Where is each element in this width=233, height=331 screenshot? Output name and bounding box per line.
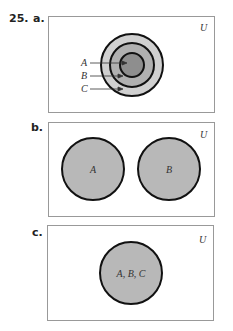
circle-a — [120, 53, 144, 77]
panel-c: U A, B, C — [48, 226, 214, 321]
universe-label-c: U — [199, 234, 207, 245]
universe-label-a: U — [200, 22, 208, 33]
label-a: A — [80, 57, 88, 68]
venn-diagrams: U A B C U A B U A, B, C — [0, 0, 233, 331]
panel-a: U A B C — [49, 17, 215, 113]
circle-label-a: A — [89, 164, 97, 175]
panel-b: U A B — [49, 123, 215, 217]
universe-label-b: U — [200, 129, 208, 140]
circle-label-abc: A, B, C — [116, 268, 146, 279]
label-b: B — [81, 70, 87, 81]
label-c: C — [81, 83, 88, 94]
circle-label-b: B — [166, 164, 172, 175]
